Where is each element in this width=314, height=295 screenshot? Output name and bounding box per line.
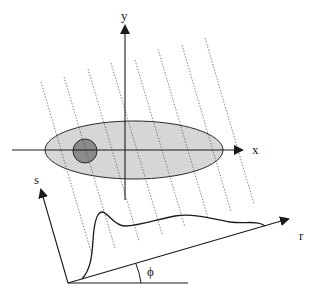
r-axis bbox=[68, 219, 288, 283]
angle-arc bbox=[136, 264, 141, 283]
angle-label: ϕ bbox=[147, 264, 154, 279]
s-axis bbox=[41, 190, 68, 283]
projection-diagram: x y s r ϕ bbox=[0, 0, 314, 295]
x-axis-label: x bbox=[252, 142, 259, 157]
r-axis-label: r bbox=[299, 228, 304, 243]
y-axis-label: y bbox=[121, 8, 128, 23]
circular-inclusion bbox=[73, 139, 97, 163]
s-axis-label: s bbox=[34, 172, 39, 187]
projection-profile-curve bbox=[82, 212, 265, 279]
